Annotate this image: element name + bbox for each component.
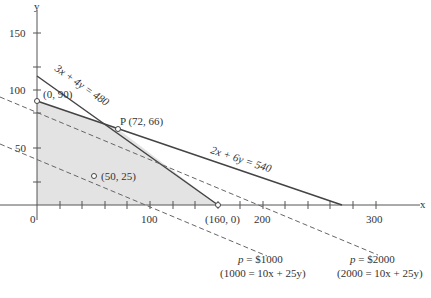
point-label-p: P (72, 66) [120, 115, 164, 128]
constraint-label-2: 2x + 6y = 540 [209, 143, 273, 174]
profit-eq-2000: (2000 = 10x + 25y) [337, 267, 423, 280]
constraint-label-1: 3x + 4y = 480 [52, 61, 112, 108]
y-tick-50: 50 [15, 142, 27, 154]
x-axis-label: x [420, 198, 426, 210]
point-50-25 [92, 174, 97, 179]
point-p [116, 127, 121, 132]
y-tick-150: 150 [9, 27, 26, 39]
y-tick-100: 100 [9, 84, 26, 96]
x-tick-0: 0 [30, 213, 36, 225]
x-tick-200: 200 [254, 213, 271, 225]
point-160-0 [216, 203, 221, 208]
point-0-90 [35, 99, 40, 104]
profit-label-1000: p = $1000 [237, 253, 283, 265]
x-tick-100: 100 [141, 213, 158, 225]
point-label-160-0: (160, 0) [205, 213, 240, 226]
profit-eq-1000: (1000 = 10x + 25y) [220, 267, 306, 280]
x-tick-300: 300 [366, 213, 383, 225]
y-axis-label: y [34, 0, 40, 12]
point-label-50-25: (50, 25) [101, 170, 136, 183]
profit-label-2000: p = $2000 [349, 253, 395, 265]
chart: 0 100 200 300 50 100 150 x y (0, 90) P (… [0, 0, 431, 298]
point-label-0-90: (0, 90) [43, 88, 73, 101]
